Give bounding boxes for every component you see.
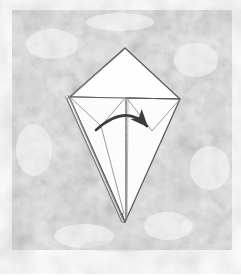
origami-figure-container: Origami fold step diagram <box>0 0 241 276</box>
origami-diagram: Origami fold step diagram <box>0 0 241 276</box>
